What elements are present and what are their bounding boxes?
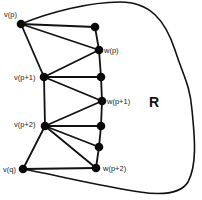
vertex-n6	[95, 143, 104, 152]
vertex-n3	[97, 73, 106, 82]
vertex-vp2	[41, 122, 50, 131]
label-v-p: v(p)	[4, 10, 17, 19]
label-v-q: v(q)	[3, 165, 16, 174]
planar-graph-diagram: v(p) w(p) v(p+1) w(p+1) v(p+2) w(p+2) v(…	[0, 0, 202, 200]
vertex-n1	[91, 23, 100, 32]
edge-vp1-vp2	[44, 77, 45, 126]
vertex-wp	[95, 46, 104, 55]
label-v-p2: v(p+2)	[14, 120, 36, 129]
region-label: R	[149, 94, 159, 110]
vertex-wp2	[92, 164, 101, 173]
edge-vp2-wp1	[45, 101, 102, 126]
edge-vp2-vq	[23, 126, 45, 169]
vertex-vq	[19, 165, 28, 174]
label-w-p: w(p)	[103, 46, 119, 55]
graph-edges	[21, 24, 102, 169]
vertex-wp1	[98, 97, 107, 106]
vertex-vp1	[40, 73, 49, 82]
vertex-vp	[17, 20, 26, 29]
vertex-n5	[97, 122, 106, 131]
label-w-p1: w(p+1)	[106, 97, 131, 106]
label-w-p2: w(p+2)	[102, 164, 127, 173]
edge-vq-wp2	[23, 168, 96, 169]
graph-svg: v(p) w(p) v(p+1) w(p+1) v(p+2) w(p+2) v(…	[0, 0, 202, 200]
edge-vp-vp1	[21, 24, 44, 77]
edge-vp2-n6	[45, 126, 99, 147]
label-v-p1: v(p+1)	[14, 73, 36, 82]
edge-vp-n1	[21, 24, 95, 27]
edge-vp1-wp	[44, 50, 99, 77]
edge-vp1-wp1	[44, 77, 102, 101]
edge-vp2-wp2	[45, 126, 96, 168]
edge-vp-wp	[21, 24, 99, 50]
